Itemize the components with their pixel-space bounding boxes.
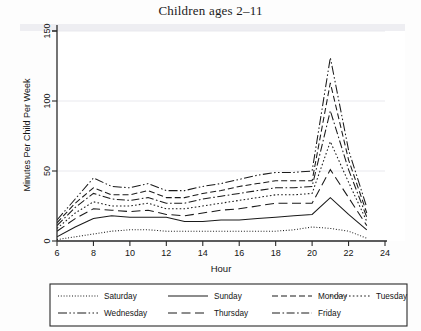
legend-label-saturday: Saturday [104,292,138,301]
y-tick-label: 50 [42,166,52,176]
x-tick-label: 8 [91,248,96,258]
legend-label-thursday: Thursday [214,309,249,318]
x-axis-title: Hour [211,263,232,274]
y-tick-label: 150 [42,23,52,38]
chart-canvas: 050100150681012141618202224 Hour Minutes… [0,0,421,331]
legend-label-friday: Friday [318,309,342,318]
x-tick-label: 12 [161,248,171,258]
x-tick-label: 22 [344,248,354,258]
x-tick-label: 20 [307,248,317,258]
x-tick-label: 10 [125,248,135,258]
y-tick-label: 100 [42,93,52,108]
legend-label-monday: Monday [318,292,348,301]
legend-label-tuesday: Tuesday [376,292,408,301]
x-tick-label: 24 [380,248,390,258]
x-tick-label: 6 [54,248,59,258]
chart-legend: SaturdaySundayMondayTuesdayWednesdayThur… [50,284,408,326]
x-tick-label: 14 [198,248,208,258]
y-tick-label: 0 [42,238,52,243]
figure-container: Children ages 2–11 050100150681012141618… [0,0,421,331]
legend-box [50,284,407,326]
x-tick-label: 16 [234,248,244,258]
legend-label-sunday: Sunday [214,292,243,301]
x-tick-label: 18 [271,248,281,258]
plot-top-band [20,24,405,31]
chart-svg: 050100150681012141618202224 Hour Minutes… [0,0,421,331]
y-axis-title: Minutes Per Child Per Week [22,78,32,191]
legend-label-wednesday: Wednesday [104,309,148,318]
